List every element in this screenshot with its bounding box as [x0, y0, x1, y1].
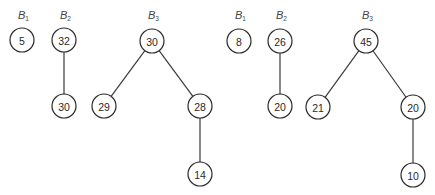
- tree-node: 14: [188, 162, 212, 186]
- node-value: 30: [146, 36, 158, 48]
- node-value: 5: [19, 35, 25, 47]
- node-value: 28: [194, 101, 206, 113]
- tree-edge: [325, 51, 359, 98]
- tree-node: 21: [306, 95, 330, 119]
- tree-node: 10: [401, 163, 425, 187]
- node-value: 26: [274, 36, 286, 48]
- label-subscript: 2: [67, 15, 71, 22]
- tree-order-label: B3: [148, 9, 159, 22]
- label-letter: B: [18, 9, 25, 21]
- svg-text:B1: B1: [235, 9, 246, 22]
- label-letter: B: [60, 9, 67, 21]
- tree-order-label: B1: [18, 9, 29, 22]
- label-subscript: 1: [25, 15, 29, 22]
- label-letter: B: [235, 9, 242, 21]
- label-subscript: 3: [369, 15, 373, 22]
- nodes-layer: 53230302928148262045212010: [10, 28, 425, 187]
- tree-node: 32: [52, 28, 76, 52]
- node-value: 14: [194, 169, 206, 181]
- node-value: 32: [58, 35, 70, 47]
- tree-node: 8: [227, 29, 251, 53]
- node-value: 29: [98, 101, 110, 113]
- svg-text:B3: B3: [362, 9, 373, 22]
- node-value: 8: [236, 36, 242, 48]
- label-subscript: 3: [155, 15, 159, 22]
- tree-node: 30: [52, 94, 76, 118]
- tree-edge: [373, 51, 406, 97]
- labels-layer: B1B2B3B1B2B3: [18, 9, 373, 22]
- tree-node: 29: [92, 94, 116, 118]
- node-value: 30: [58, 101, 70, 113]
- label-letter: B: [362, 9, 369, 21]
- tree-order-label: B1: [235, 9, 246, 22]
- tree-node: 20: [268, 94, 292, 118]
- label-subscript: 1: [242, 15, 246, 22]
- node-value: 20: [407, 102, 419, 114]
- tree-node: 28: [188, 94, 212, 118]
- label-letter: B: [276, 9, 283, 21]
- tree-edge: [159, 51, 193, 97]
- tree-edge: [111, 51, 145, 97]
- tree-order-label: B2: [60, 9, 71, 22]
- svg-text:B2: B2: [276, 9, 287, 22]
- tree-node: 26: [268, 29, 292, 53]
- label-letter: B: [148, 9, 155, 21]
- node-value: 45: [360, 36, 372, 48]
- node-value: 10: [407, 170, 419, 182]
- label-subscript: 2: [283, 15, 287, 22]
- tree-node: 5: [10, 28, 34, 52]
- tree-node: 45: [354, 29, 378, 53]
- binomial-heap-diagram: 53230302928148262045212010 B1B2B3B1B2B3: [0, 0, 435, 195]
- svg-text:B1: B1: [18, 9, 29, 22]
- tree-order-label: B2: [276, 9, 287, 22]
- svg-text:B3: B3: [148, 9, 159, 22]
- svg-text:B2: B2: [60, 9, 71, 22]
- node-value: 20: [274, 101, 286, 113]
- node-value: 21: [312, 102, 324, 114]
- tree-order-label: B3: [362, 9, 373, 22]
- tree-node: 20: [401, 95, 425, 119]
- tree-node: 30: [140, 29, 164, 53]
